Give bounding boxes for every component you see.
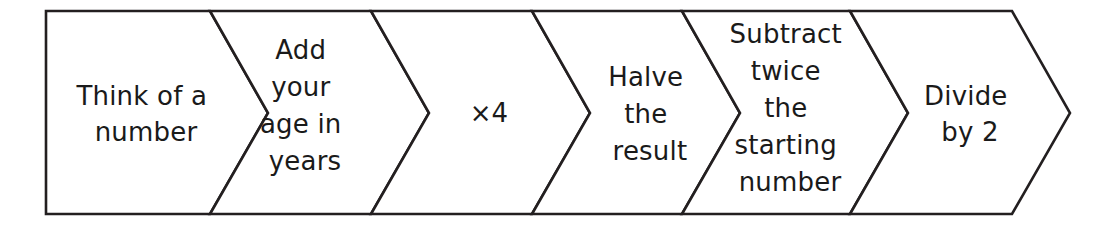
diagram-canvas: Think of a number Add your age in years … (0, 0, 1101, 237)
step-5-line-1: Subtract (730, 19, 842, 49)
step-6-line-1: Divide (924, 81, 1008, 111)
step-2-line-4: years (269, 146, 342, 176)
step-1-line-1: Think of a (75, 81, 207, 111)
step-4-line-3: result (613, 136, 688, 166)
chevron-flow-diagram: Think of a number Add your age in years … (0, 0, 1101, 237)
step-5-line-5: number (739, 167, 842, 197)
step-3-line-1: ×4 (470, 98, 509, 128)
step-2-line-3: age in (260, 109, 342, 139)
step-4-line-1: Halve (608, 62, 683, 92)
step-1-line-2: number (95, 117, 198, 147)
step-2-line-2: your (271, 72, 330, 102)
step-6-line-2: by 2 (941, 117, 999, 147)
step-4-line-2: the (624, 99, 667, 129)
step-5-line-3: the (764, 93, 807, 123)
step-2-line-1: Add (275, 35, 326, 65)
chevron-step-3-label: ×4 (470, 98, 509, 128)
step-5-line-4: starting (735, 130, 837, 160)
step-5-line-2: twice (751, 56, 821, 86)
